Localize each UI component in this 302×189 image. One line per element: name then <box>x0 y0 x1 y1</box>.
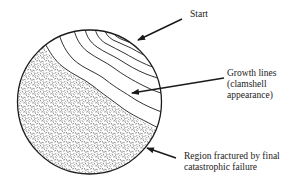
final-failure-label-line2: catastrophic failure <box>184 162 280 173</box>
final-failure-label: Region fractured by final catastrophic f… <box>184 151 280 173</box>
growth-lines-label: Growth lines (clamshell appearance) <box>227 68 276 101</box>
growth-lines-label-line3: appearance) <box>227 90 276 101</box>
start-label-text: Start <box>190 9 208 20</box>
start-arrow <box>138 19 182 40</box>
growth-lines-arrow <box>132 78 224 93</box>
growth-lines-label-line1: Growth lines <box>227 68 276 79</box>
start-label: Start <box>190 9 208 20</box>
final-fracture-region <box>10 40 170 185</box>
final-failure-arrow <box>147 148 176 158</box>
growth-lines-label-line2: (clamshell <box>227 79 276 90</box>
final-failure-label-line1: Region fractured by final <box>184 151 280 162</box>
